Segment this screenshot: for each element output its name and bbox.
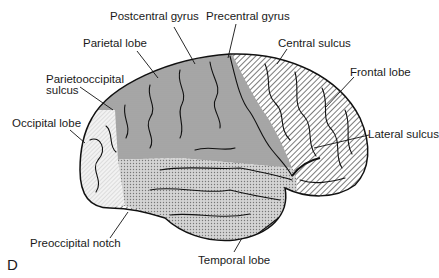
leader-preoccipital-notch <box>110 212 128 238</box>
label-postcentral-gyrus: Postcentral gyrus <box>110 10 199 23</box>
leader-occipital-lobe <box>70 130 85 143</box>
panel-letter: D <box>7 256 18 273</box>
leader-postcentral-gyrus <box>174 27 195 64</box>
leader-precentral-gyrus <box>228 24 236 58</box>
label-central-sulcus: Central sulcus <box>278 37 351 50</box>
label-frontal-lobe: Frontal lobe <box>350 66 411 79</box>
brain-lateral-view-figure: Postcentral gyrus Precentral gyrus Parie… <box>0 0 439 278</box>
label-temporal-lobe: Temporal lobe <box>198 254 270 267</box>
label-parietooccipital-sulcus-line2: sulcus <box>46 84 79 97</box>
label-occipital-lobe: Occipital lobe <box>12 117 81 130</box>
label-precentral-gyrus: Precentral gyrus <box>206 10 290 23</box>
label-parietal-lobe: Parietal lobe <box>83 37 147 50</box>
label-preoccipital-notch: Preoccipital notch <box>30 237 121 250</box>
label-lateral-sulcus: Lateral sulcus <box>368 128 439 141</box>
